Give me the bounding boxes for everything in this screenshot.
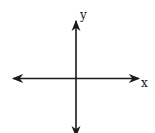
x-axis-label: x	[141, 76, 148, 90]
coordinate-axes-diagram: y x	[0, 0, 155, 133]
y-axis-label: y	[79, 8, 87, 22]
